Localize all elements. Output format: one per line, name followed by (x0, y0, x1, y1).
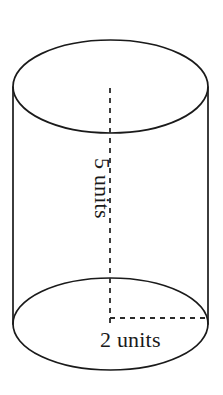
cylinder-figure: 5 units 2 units (0, 0, 223, 395)
height-dimension-label: 5 units (91, 158, 113, 219)
radius-dimension-label: 2 units (100, 329, 161, 351)
